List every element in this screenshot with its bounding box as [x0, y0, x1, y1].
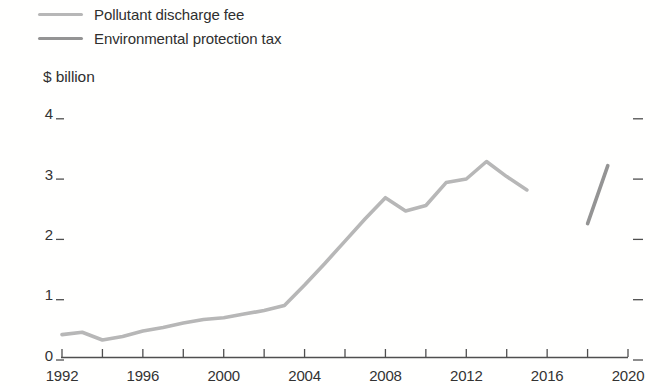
x-axis-tick-label: 1992 [46, 367, 79, 384]
x-axis-tick-label: 2008 [369, 367, 402, 384]
x-axis-tick-label: 2016 [531, 367, 564, 384]
chart-canvas: 1992199620002004200820122016202001234 [0, 0, 672, 386]
x-axis-tick-label: 2012 [450, 367, 483, 384]
x-axis-tick-label: 2004 [288, 367, 321, 384]
y-axis-tick-label: 3 [45, 166, 53, 183]
y-axis-tick-label: 0 [45, 347, 53, 364]
line-chart: Pollutant discharge fee Environmental pr… [0, 0, 672, 386]
y-axis-tick-label: 2 [45, 226, 53, 243]
series-line-environmental-protection-tax [588, 166, 608, 224]
x-axis-tick-label: 2020 [612, 367, 645, 384]
series-line-pollutant-discharge-fee [62, 162, 527, 341]
y-axis-tick-label: 1 [45, 286, 53, 303]
x-axis-tick-label: 2000 [207, 367, 240, 384]
x-axis-tick-label: 1996 [127, 367, 160, 384]
y-axis-tick-label: 4 [45, 105, 53, 122]
